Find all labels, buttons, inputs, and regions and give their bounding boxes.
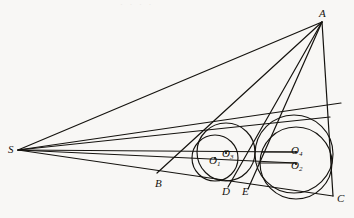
point-label-D: D: [222, 186, 230, 197]
point-label-S: S: [8, 144, 14, 155]
point-label-O1: O1: [209, 155, 220, 166]
point-label-subscript-O1: 1: [217, 160, 221, 168]
point-label-O2: O2: [291, 160, 302, 171]
point-label-subscript-O3: 3: [230, 153, 234, 161]
seg-S-T1: [18, 103, 341, 150]
point-label-O3: O3: [222, 148, 233, 159]
seg-S-T2: [18, 117, 330, 150]
geometry-canvas: [0, 0, 354, 218]
point-label-A: A: [319, 8, 326, 19]
point-label-O4: O4: [291, 145, 302, 156]
point-label-E: E: [242, 186, 249, 197]
scan-artifact-top: · · · ·: [120, 0, 154, 9]
geometry-figure: ACSBDEO1O2O3O4 · · · ·: [0, 0, 354, 218]
point-label-subscript-O2: 2: [299, 165, 303, 173]
point-label-C: C: [337, 193, 344, 204]
point-label-subscript-O4: 4: [299, 150, 303, 158]
seg-A-E: [248, 22, 322, 189]
point-label-B: B: [155, 178, 162, 189]
seg-S-A: [18, 22, 322, 150]
